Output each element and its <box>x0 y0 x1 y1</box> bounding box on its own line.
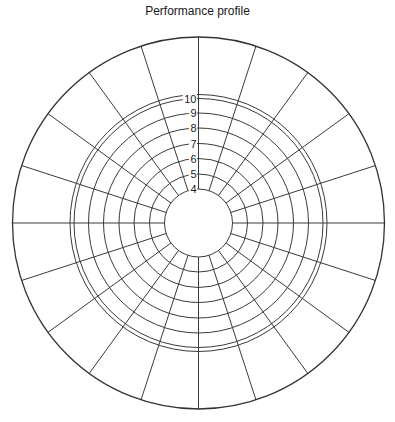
polar-chart: 45678910 <box>0 0 395 422</box>
radial-ring <box>165 189 233 257</box>
radial-tick-label: 7 <box>190 138 196 150</box>
radial-tick-label: 4 <box>190 183 196 195</box>
spoke-lines <box>13 37 385 409</box>
radial-tick-label: 10 <box>184 93 196 105</box>
radial-tick-label: 9 <box>190 107 196 119</box>
radial-tick-label: 8 <box>190 122 196 134</box>
radial-tick-label: 5 <box>190 168 196 180</box>
radial-tick-label: 6 <box>190 153 196 165</box>
